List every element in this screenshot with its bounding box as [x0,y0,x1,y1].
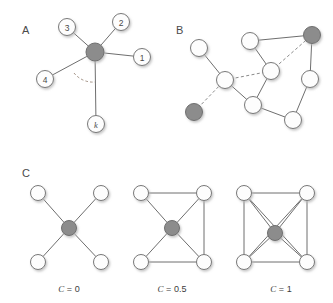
node-c1-tr [300,186,315,201]
node-b-8 [285,112,302,129]
node-b-6-gray [186,104,203,121]
node-c0-br [94,255,109,270]
hub-node [86,43,104,61]
figure-background [0,0,333,303]
node-k-label: k [94,120,98,130]
caption-c1-value: 1 [287,284,292,294]
node-c0-center [62,221,77,236]
node-b-5 [217,72,234,89]
node-b-7 [245,97,262,114]
caption-c0-value: 0 [75,284,80,294]
network-figure: A 1 2 3 4 k B [0,0,333,303]
node-c05-tr [197,186,212,201]
node-b-4 [302,71,319,88]
node-c1-tl [237,186,252,201]
node-c1-center [268,226,283,241]
node-4-label: 4 [43,75,48,85]
node-b-0 [191,40,208,57]
node-c0-tr [94,186,109,201]
caption-c1-eq: = [276,284,286,294]
node-b-3 [263,63,280,80]
caption-c0-eq: = [64,284,74,294]
panel-c-letter: C [22,167,30,179]
caption-c1: C = 1 [270,284,291,294]
node-c05-br [197,255,212,270]
panel-a-letter: A [22,24,30,36]
node-c1-bl [237,255,252,270]
node-b-2-gray [304,27,321,44]
node-c05-center [165,221,180,236]
node-2-label: 2 [119,18,124,28]
node-c05-tl [134,186,149,201]
node-b-1 [242,33,259,50]
node-c05-bl [134,255,149,270]
node-1-label: 1 [140,53,145,63]
panel-b-letter: B [176,24,183,36]
node-c0-bl [31,255,46,270]
caption-c05-eq: = [164,284,174,294]
caption-c05-value: 0.5 [174,284,187,294]
node-c0-tl [31,186,46,201]
node-3-label: 3 [65,23,70,33]
node-c1-br [300,255,315,270]
caption-c05: C = 0.5 [158,284,187,294]
caption-c0: C = 0 [58,284,79,294]
